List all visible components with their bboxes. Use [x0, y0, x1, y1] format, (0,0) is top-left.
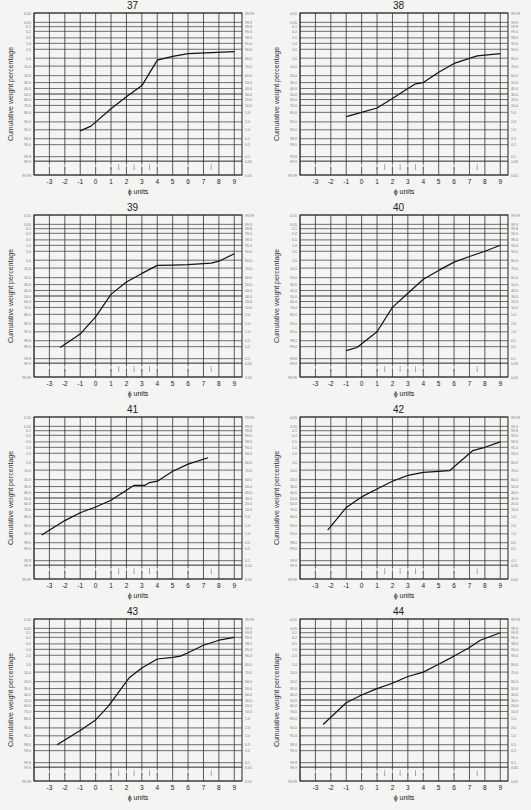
- svg-text:20.0: 20.0: [290, 74, 297, 78]
- svg-text:40.0: 40.0: [24, 491, 31, 495]
- svg-text:2.0: 2.0: [26, 452, 31, 456]
- svg-text:2.0: 2.0: [26, 48, 31, 52]
- svg-text:30.0: 30.0: [24, 81, 31, 85]
- svg-text:0.01: 0.01: [245, 780, 252, 784]
- svg-text:95.0: 95.0: [245, 648, 252, 652]
- svg-text:0: 0: [94, 380, 98, 387]
- svg-text:2.0: 2.0: [245, 524, 250, 528]
- svg-text:-1: -1: [77, 178, 83, 185]
- svg-text:0.5: 0.5: [245, 743, 250, 747]
- svg-text:99.0: 99.0: [290, 345, 297, 349]
- svg-text:5: 5: [171, 178, 175, 185]
- svg-text:5: 5: [437, 784, 441, 791]
- svg-text:90.0: 90.0: [290, 524, 297, 528]
- svg-text:99.99: 99.99: [245, 416, 254, 420]
- svg-text:99.0: 99.0: [24, 345, 31, 349]
- svg-text:-2: -2: [328, 380, 334, 387]
- probability-plot: 0.0199.990.0599.90.199.80.299.00.598.01.…: [0, 404, 265, 606]
- svg-text:10.0: 10.0: [511, 306, 518, 310]
- svg-text:-1: -1: [77, 582, 83, 589]
- svg-text:99.9: 99.9: [24, 766, 31, 770]
- svg-text:4: 4: [155, 178, 159, 185]
- svg-text:50.0: 50.0: [290, 295, 297, 299]
- svg-text:80.0: 80.0: [290, 313, 297, 317]
- svg-text:60.0: 60.0: [24, 502, 31, 506]
- svg-text:2: 2: [125, 178, 129, 185]
- svg-text:80.0: 80.0: [24, 515, 31, 519]
- svg-text:2: 2: [125, 380, 129, 387]
- svg-text:98.0: 98.0: [24, 541, 31, 545]
- svg-text:40.0: 40.0: [511, 693, 518, 697]
- svg-text:1: 1: [109, 380, 113, 387]
- svg-text:98.0: 98.0: [24, 743, 31, 747]
- svg-text:95.0: 95.0: [290, 330, 297, 334]
- svg-text:2: 2: [391, 178, 395, 185]
- svg-text:99.99: 99.99: [511, 618, 520, 622]
- svg-text:0.1: 0.1: [511, 357, 516, 361]
- svg-text:10.0: 10.0: [245, 104, 252, 108]
- svg-text:0.05: 0.05: [511, 362, 518, 366]
- svg-text:60.0: 60.0: [290, 704, 297, 708]
- svg-text:50.0: 50.0: [511, 485, 518, 489]
- svg-text:ϕ units: ϕ units: [394, 592, 415, 600]
- svg-text:99.0: 99.0: [511, 232, 518, 236]
- svg-text:1.0: 1.0: [26, 244, 31, 248]
- svg-text:99.8: 99.8: [24, 761, 31, 765]
- svg-text:20.0: 20.0: [511, 98, 518, 102]
- svg-text:95.0: 95.0: [511, 446, 518, 450]
- svg-text:4: 4: [155, 380, 159, 387]
- svg-text:5.0: 5.0: [26, 259, 31, 263]
- svg-text:99.0: 99.0: [245, 636, 252, 640]
- svg-text:99.8: 99.8: [290, 155, 297, 159]
- svg-text:90.0: 90.0: [24, 524, 31, 528]
- svg-text:99.9: 99.9: [24, 564, 31, 568]
- svg-text:60.0: 60.0: [245, 680, 252, 684]
- svg-text:8: 8: [217, 178, 221, 185]
- svg-text:99.99: 99.99: [22, 780, 31, 784]
- svg-text:0.1: 0.1: [245, 155, 250, 159]
- svg-text:10.0: 10.0: [24, 469, 31, 473]
- svg-text:8: 8: [217, 784, 221, 791]
- svg-text:95.0: 95.0: [290, 532, 297, 536]
- svg-text:0.05: 0.05: [511, 160, 518, 164]
- svg-text:0.01: 0.01: [511, 780, 518, 784]
- svg-text:4: 4: [421, 380, 425, 387]
- svg-text:40.0: 40.0: [290, 87, 297, 91]
- svg-text:10.0: 10.0: [245, 306, 252, 310]
- svg-text:-3: -3: [313, 582, 319, 589]
- svg-text:0: 0: [360, 784, 364, 791]
- svg-text:0.2: 0.2: [245, 143, 250, 147]
- svg-text:80.0: 80.0: [511, 461, 518, 465]
- chart-panel-39: 390.0199.990.0599.90.199.80.299.00.598.0…: [0, 202, 265, 404]
- svg-text:7: 7: [468, 178, 472, 185]
- svg-text:5.0: 5.0: [511, 111, 516, 115]
- svg-text:90.0: 90.0: [24, 120, 31, 124]
- svg-text:80.0: 80.0: [24, 717, 31, 721]
- svg-text:0.2: 0.2: [245, 547, 250, 551]
- svg-text:90.0: 90.0: [24, 322, 31, 326]
- svg-text:70.0: 70.0: [511, 267, 518, 271]
- svg-text:5.0: 5.0: [511, 717, 516, 721]
- svg-text:5.0: 5.0: [26, 57, 31, 61]
- probability-plot: 0.0199.990.0599.90.199.80.299.00.598.01.…: [0, 606, 265, 808]
- svg-text:Cumulative weight percentage: Cumulative weight percentage: [273, 653, 281, 747]
- svg-text:10.0: 10.0: [511, 710, 518, 714]
- svg-text:10.0: 10.0: [24, 671, 31, 675]
- svg-text:8: 8: [483, 178, 487, 185]
- svg-text:2.0: 2.0: [511, 120, 516, 124]
- svg-text:90.0: 90.0: [245, 654, 252, 658]
- svg-text:4: 4: [421, 784, 425, 791]
- svg-text:Cumulative weight percentage: Cumulative weight percentage: [7, 451, 15, 545]
- svg-text:2: 2: [125, 582, 129, 589]
- svg-text:70.0: 70.0: [511, 65, 518, 69]
- svg-text:8: 8: [483, 784, 487, 791]
- svg-text:5.0: 5.0: [511, 515, 516, 519]
- svg-text:0.01: 0.01: [245, 174, 252, 178]
- svg-text:50.0: 50.0: [511, 283, 518, 287]
- svg-text:0.2: 0.2: [292, 30, 297, 34]
- svg-text:0.1: 0.1: [26, 227, 31, 231]
- svg-text:2.0: 2.0: [292, 654, 297, 658]
- svg-text:0.5: 0.5: [292, 440, 297, 444]
- svg-text:50.0: 50.0: [24, 295, 31, 299]
- svg-text:30.0: 30.0: [511, 497, 518, 501]
